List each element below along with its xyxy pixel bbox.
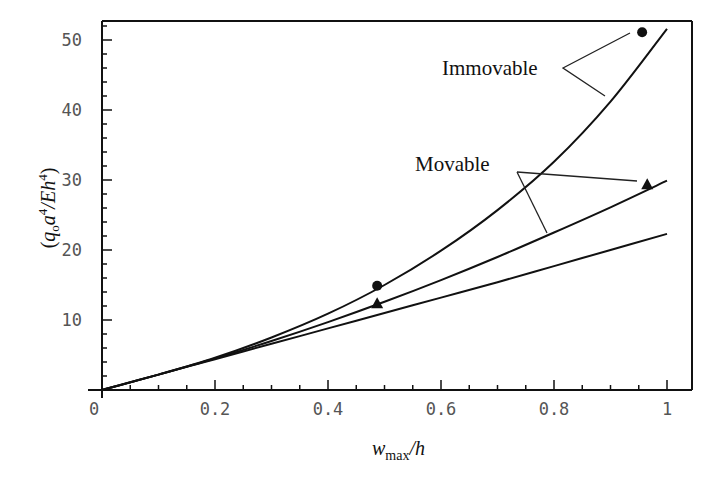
chart: 00.20.40.60.81 1020304050 Immovable Mova…: [0, 0, 723, 477]
x-tick-label: 0.6: [426, 399, 457, 419]
x-tick-label: 0: [89, 399, 99, 419]
circle-marker: [637, 27, 647, 37]
annotation-movable: Movable: [415, 152, 490, 176]
x-axis-tick-labels: 00.20.40.60.81: [89, 399, 672, 419]
y-tick-label: 10: [62, 310, 82, 330]
series-line: [102, 29, 667, 390]
x-axis-ticks: [130, 380, 667, 390]
annotation-immovable: Immovable: [442, 56, 538, 80]
x-tick-label: 1: [662, 399, 672, 419]
y-tick-label: 20: [62, 240, 82, 260]
y-axis-ticks: [102, 26, 112, 376]
x-tick-label: 0.2: [200, 399, 231, 419]
x-axis-label: wmax/h: [372, 437, 425, 463]
plot-frame: [88, 21, 692, 398]
y-axis-tick-labels: 1020304050: [62, 30, 82, 330]
y-tick-label: 40: [62, 100, 82, 120]
y-tick-label: 30: [62, 170, 82, 190]
y-tick-label: 50: [62, 30, 82, 50]
x-tick-label: 0.4: [313, 399, 344, 419]
circle-marker: [372, 281, 382, 291]
x-tick-label: 0.8: [539, 399, 570, 419]
triangle-marker: [641, 178, 653, 189]
y-axis-label: (qoa4/Eh4): [35, 168, 62, 249]
series-line: [102, 234, 667, 390]
series-lines: [102, 29, 667, 390]
